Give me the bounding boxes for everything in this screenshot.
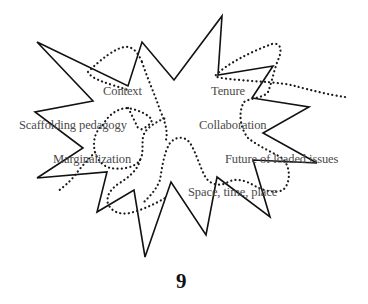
label-scaffolding-pedagogy: Scaffolding pedagogy [19, 119, 127, 132]
label-tenure: Tenure [211, 85, 245, 98]
label-space-time-place: Space, time, place [188, 186, 277, 199]
page-number: 9 [176, 271, 187, 292]
starburst-outline [35, 16, 317, 257]
label-context: Context [103, 85, 142, 98]
label-future-of-loaded-issues: Future of loaded issues [225, 153, 338, 166]
label-marginalization: Marginalization [53, 153, 131, 166]
label-collaboration: Collaboration [199, 119, 266, 132]
